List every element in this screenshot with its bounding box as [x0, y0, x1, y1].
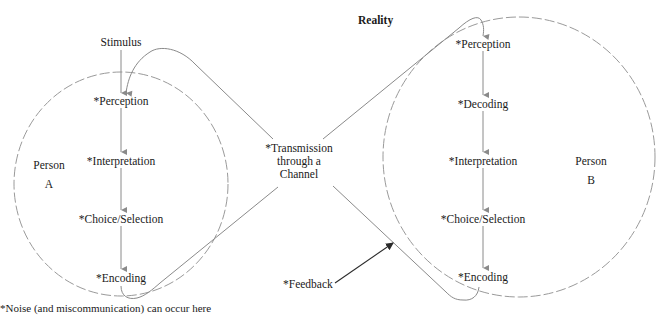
feedback-arrow: [335, 243, 393, 283]
a-step-encoding: *Encoding: [96, 272, 146, 285]
b-step-choice-selection: *Choice/Selection: [441, 213, 525, 226]
channel-label-line3: Channel: [280, 168, 318, 181]
b-step-decoding: *Decoding: [458, 98, 508, 111]
footnote: *Noise (and miscommunication) can occur …: [0, 302, 211, 315]
channel-label-line1: *Transmission: [265, 142, 332, 155]
a-step-choice-selection: *Choice/Selection: [79, 213, 163, 226]
channel-to-b-perception: [323, 18, 484, 139]
feedback-label: *Feedback: [283, 278, 333, 291]
channel-to-a-perception: [126, 48, 273, 139]
stimulus-label: Stimulus: [101, 36, 142, 49]
person-a-label-line1: Person: [33, 159, 64, 172]
person-b-boundary: [383, 17, 655, 297]
a-step-perception: *Perception: [94, 95, 149, 108]
channel-label-line2: through a: [277, 155, 321, 168]
person-b-label-line2: B: [587, 174, 595, 187]
b-step-perception: *Perception: [456, 38, 511, 51]
b-step-interpretation: *Interpretation: [449, 155, 517, 168]
a-step-interpretation: *Interpretation: [87, 155, 155, 168]
diagram-title: Reality: [358, 14, 393, 27]
person-a-label-line2: A: [45, 178, 53, 191]
b-step-encoding: *Encoding: [458, 271, 508, 284]
person-b-label-line1: Person: [575, 155, 606, 168]
